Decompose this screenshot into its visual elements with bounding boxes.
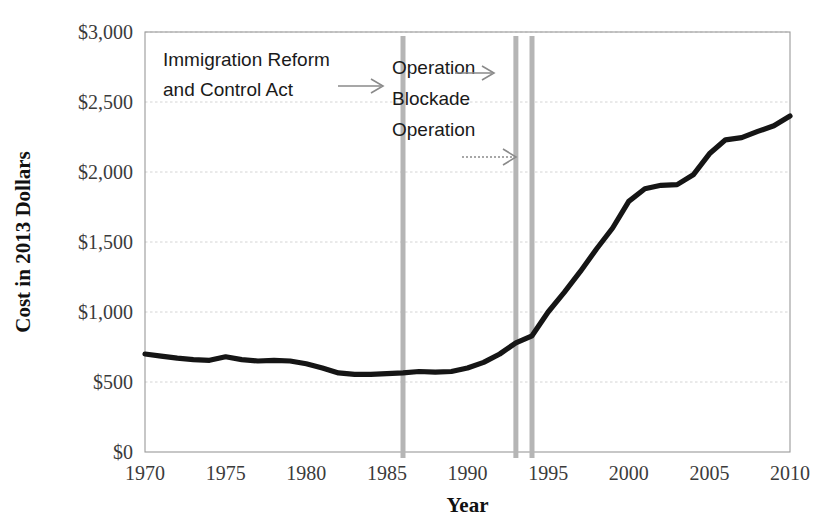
- line-chart: $0$500$1,000$1,500$2,000$2,500$3,0001970…: [0, 0, 827, 528]
- x-axis-tick-label: 2000: [609, 462, 649, 484]
- annotation-label-immigration-reform: and Control Act: [163, 79, 294, 100]
- x-axis-tick-label: 1975: [206, 462, 246, 484]
- y-axis-tick-label: $3,000: [78, 21, 133, 43]
- y-axis-tick-label: $2,500: [78, 91, 133, 113]
- annotation-label-immigration-reform: Immigration Reform: [163, 49, 330, 70]
- chart-container: $0$500$1,000$1,500$2,000$2,500$3,0001970…: [0, 0, 827, 528]
- y-axis-tick-label: $1,500: [78, 231, 133, 253]
- x-axis-tick-label: 2010: [770, 462, 810, 484]
- annotation-label-operation-blockade: Operation: [392, 119, 475, 140]
- y-axis-tick-label: $1,000: [78, 301, 133, 323]
- x-axis-tick-label: 1990: [448, 462, 488, 484]
- y-axis-tick-label: $500: [93, 371, 133, 393]
- x-axis-tick-label: 2005: [689, 462, 729, 484]
- y-axis-tick-label: $2,000: [78, 161, 133, 183]
- y-axis-title: Cost in 2013 Dollars: [11, 151, 35, 332]
- data-series-line: [145, 116, 790, 374]
- annotation-label-operation-blockade: Blockade: [392, 88, 470, 109]
- x-axis-tick-label: 1980: [286, 462, 326, 484]
- y-axis-tick-label: $0: [113, 441, 133, 463]
- x-axis-tick-label: 1995: [528, 462, 568, 484]
- annotation-label-operation-blockade: Operation: [392, 57, 475, 78]
- x-axis-tick-label: 1985: [367, 462, 407, 484]
- x-axis-title: Year: [447, 493, 489, 517]
- x-axis-tick-label: 1970: [125, 462, 165, 484]
